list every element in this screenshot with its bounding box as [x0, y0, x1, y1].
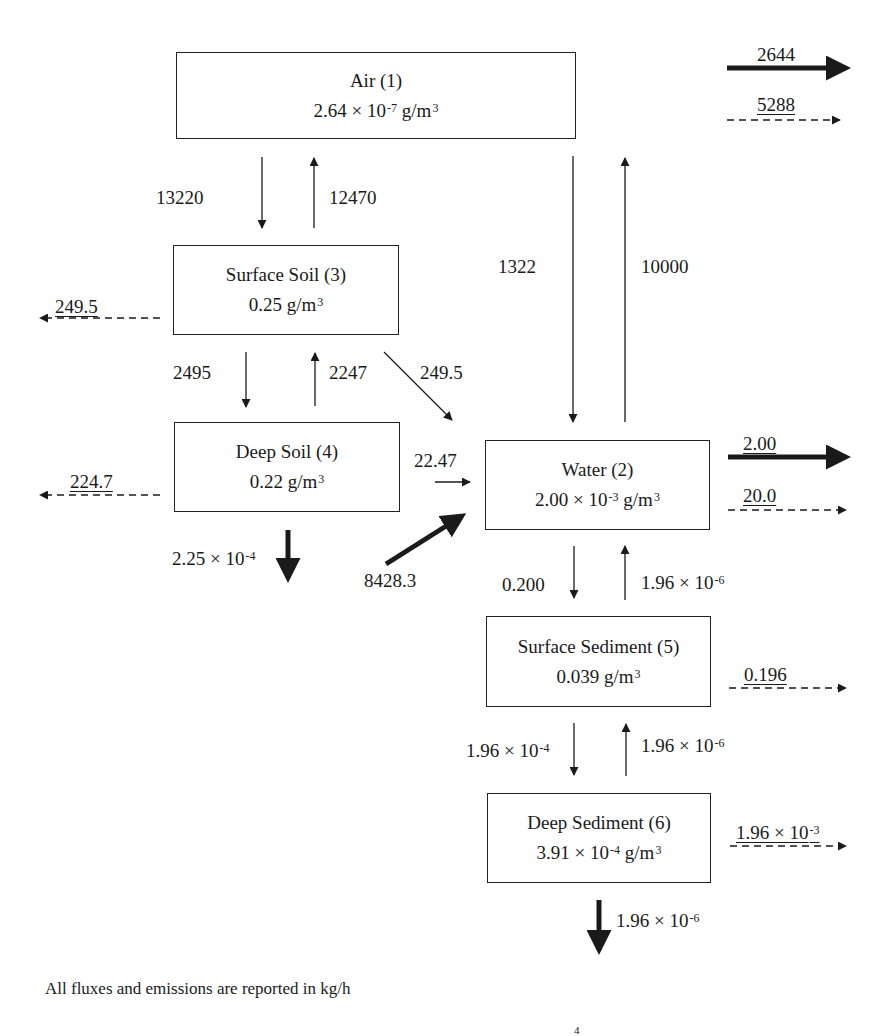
label-water-to-air: 10000: [641, 256, 689, 278]
label-deep-to-surface-sediment: 1.96 × 10-6: [641, 735, 724, 757]
label-deep-sediment-burial: 1.96 × 10-6: [616, 910, 699, 932]
emission-to-water-arrow: [386, 516, 462, 564]
label-water-to-sediment: 0.200: [502, 574, 545, 596]
compartment-concentration: 0.039 g/m3: [556, 662, 640, 692]
compartment-deep-sediment: Deep Sediment (6) 3.91 × 10-4 g/m3: [487, 793, 711, 883]
label-surface-sediment-reaction: 0.196: [744, 664, 787, 686]
label-air-reaction: 5288: [757, 94, 795, 116]
compartment-name: Deep Soil (4): [236, 437, 338, 467]
label-deep-sediment-reaction: 1.96 × 10-3: [736, 822, 819, 844]
label-deep-soil-reaction: 224.7: [70, 471, 113, 493]
compartment-concentration: 3.91 × 10-4 g/m3: [537, 838, 662, 868]
label-surface-soil-reaction: 249.5: [55, 296, 98, 318]
compartment-surface-sediment: Surface Sediment (5) 0.039 g/m3: [486, 616, 711, 707]
units-footnote: All fluxes and emissions are reported in…: [45, 979, 350, 999]
compartment-name: Deep Sediment (6): [527, 808, 671, 838]
label-water-reaction: 20.0: [743, 485, 776, 507]
label-deep-to-surface-soil: 2247: [329, 362, 367, 384]
label-soil-to-air: 12470: [329, 187, 377, 209]
compartment-name: Surface Sediment (5): [518, 632, 679, 662]
label-air-to-soil: 13220: [156, 187, 204, 209]
compartment-surface-soil: Surface Soil (3) 0.25 g/m3: [173, 245, 399, 335]
compartment-name: Surface Soil (3): [226, 260, 346, 290]
label-deep-soil-burial: 2.25 × 10-4: [172, 548, 255, 570]
label-surface-to-deep-sediment: 1.96 × 10-4: [466, 740, 549, 762]
compartment-concentration: 0.25 g/m3: [249, 290, 324, 320]
compartment-water: Water (2) 2.00 × 10-3 g/m3: [485, 440, 710, 530]
label-emission-to-water: 8428.3: [364, 570, 416, 592]
compartment-name: Air (1): [350, 66, 402, 96]
truncated-caption-fragment: 4: [574, 1024, 580, 1036]
compartment-deep-soil: Deep Soil (4) 0.22 g/m3: [174, 422, 400, 512]
flow-arrows-layer: [0, 0, 888, 1036]
compartment-concentration: 2.00 × 10-3 g/m3: [535, 485, 660, 515]
label-water-advection: 2.00: [743, 433, 776, 455]
label-deep-soil-to-water: 22.47: [414, 450, 457, 472]
label-air-advection: 2644: [757, 44, 795, 66]
label-surface-to-deep-soil: 2495: [173, 362, 211, 384]
compartment-name: Water (2): [562, 455, 634, 485]
compartment-concentration: 2.64 × 10-7 g/m3: [314, 96, 439, 126]
label-sediment-to-water: 1.96 × 10-6: [641, 572, 724, 594]
label-soil-to-water: 249.5: [420, 362, 463, 384]
compartment-concentration: 0.22 g/m3: [250, 467, 325, 497]
label-air-to-water: 1322: [498, 256, 536, 278]
compartment-air: Air (1) 2.64 × 10-7 g/m3: [176, 52, 576, 139]
